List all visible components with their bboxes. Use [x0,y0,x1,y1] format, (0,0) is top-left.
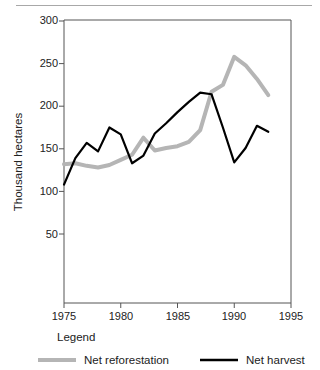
series-line-net-reforestation [64,57,268,168]
x-axis-tick-labels: 1975 1980 1985 1990 1995 [52,310,303,322]
x-tick-label-1980: 1980 [109,310,133,322]
y-tick-label-300: 300 [40,14,58,26]
y-tick-label-150: 150 [40,142,58,154]
y-tick-label-50: 50 [46,228,58,240]
legend-title: Legend [57,331,95,343]
legend-label-net-reforestation: Net reforestation [84,354,169,366]
plot-frame [64,20,291,303]
legend-label-net-harvest: Net harvest [246,354,306,366]
legend: Legend Net reforestation Net harvest [38,331,306,366]
series-line-net-harvest [64,93,268,185]
y-axis-ticks [59,21,64,234]
y-axis-tick-labels: 300 250 200 150 100 50 [40,14,58,240]
line-chart-svg: 300 250 200 150 100 50 1975 1980 1985 19… [0,0,320,370]
y-tick-label-100: 100 [40,185,58,197]
data-series-group [64,57,268,185]
y-axis-title: Thousand hectares [12,113,24,212]
axes-rectangle [64,20,291,303]
chart-figure: 300 250 200 150 100 50 1975 1980 1985 19… [0,0,320,370]
x-tick-label-1985: 1985 [166,310,190,322]
x-axis-ticks [64,303,291,308]
x-tick-label-1975: 1975 [52,310,76,322]
x-tick-label-1995: 1995 [279,310,303,322]
x-tick-label-1990: 1990 [222,310,246,322]
y-tick-label-250: 250 [40,57,58,69]
y-tick-label-200: 200 [40,99,58,111]
